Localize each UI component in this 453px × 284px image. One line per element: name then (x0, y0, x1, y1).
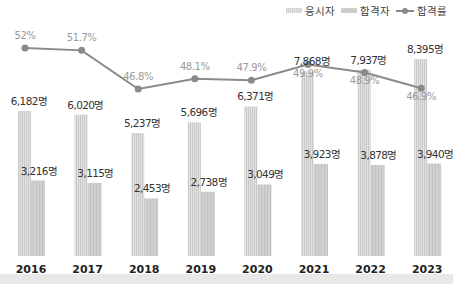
pass-rate-label: 52% (14, 30, 35, 41)
passers-bar (314, 164, 328, 256)
applicants-bar (131, 133, 144, 256)
pass-rate-label: 48.9% (350, 75, 380, 86)
passers-bar (201, 192, 215, 256)
applicants-value-label: 6,020명 (67, 99, 103, 111)
passers-value-label: 3,878명 (360, 149, 396, 161)
applicants-value-label: 7,868명 (294, 55, 330, 67)
passers-value-label: 2,453명 (134, 182, 170, 194)
pass-rate-label: 47.9% (237, 62, 267, 73)
pass-rate-label: 51.7% (67, 32, 97, 43)
pass-rate-label: 46.8% (123, 71, 153, 82)
passers-value-label: 3,216명 (21, 165, 57, 177)
applicants-bar (18, 111, 31, 256)
passers-bar (88, 183, 102, 256)
applicants-value-label: 5,237명 (124, 117, 160, 129)
applicants-bar (358, 70, 371, 256)
applicants-bar (188, 122, 201, 256)
applicants-value-label: 7,937명 (350, 54, 386, 66)
applicants-value-label: 6,371명 (237, 90, 273, 102)
passers-bar (371, 165, 385, 256)
applicants-value-label: 6,182명 (11, 95, 47, 107)
applicants-value-label: 5,696명 (181, 106, 217, 118)
applicants-value-label: 8,395명 (407, 43, 443, 55)
applicants-bar (301, 71, 314, 256)
applicants-bar (75, 115, 88, 256)
pass-rate-marker-icon (191, 75, 198, 82)
passers-value-label: 3,940명 (417, 148, 453, 160)
bottom-divider (0, 274, 453, 284)
passers-value-label: 3,049명 (247, 168, 283, 180)
bar-line-chart: 6,182명3,216명20166,020명3,115명20175,237명2,… (0, 0, 453, 284)
passers-value-label: 3,115명 (77, 167, 113, 179)
pass-rate-marker-icon (22, 45, 29, 52)
pass-rate-label: 46.9% (406, 91, 436, 102)
passers-bar (257, 184, 271, 256)
pass-rate-marker-icon (135, 86, 142, 93)
pass-rate-label: 48.1% (180, 61, 210, 72)
passers-value-label: 2,738명 (191, 176, 227, 188)
passers-bar (144, 198, 158, 256)
pass-rate-marker-icon (78, 47, 85, 54)
pass-rate-marker-icon (248, 77, 255, 84)
applicants-bar (244, 106, 257, 256)
pass-rate-label: 49.9% (293, 68, 323, 79)
passers-value-label: 3,923명 (304, 148, 340, 160)
passers-bar (427, 164, 441, 256)
passers-bar (31, 181, 45, 256)
